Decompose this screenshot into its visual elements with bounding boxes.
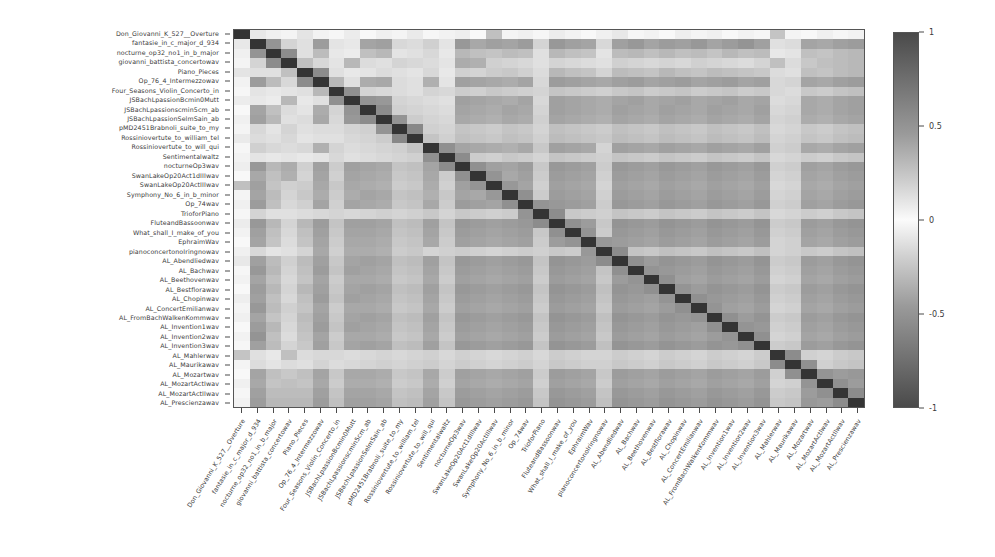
- heatmap-cell: [266, 124, 282, 133]
- heatmap-cell: [407, 87, 423, 96]
- heatmap-cell: [549, 398, 565, 407]
- heatmap-cell: [581, 275, 597, 284]
- heatmap-cell: [250, 181, 266, 190]
- heatmap-cell: [738, 313, 754, 322]
- heatmap-cell: [344, 143, 360, 152]
- heatmap-cell: [722, 153, 738, 162]
- heatmap-cell: [297, 398, 313, 407]
- heatmap-cell: [596, 181, 612, 190]
- heatmap-cell: [329, 379, 345, 388]
- heatmap-cell: [344, 153, 360, 162]
- heatmap-cell: [675, 209, 691, 218]
- heatmap-cell: [644, 115, 660, 124]
- heatmap-cell: [722, 190, 738, 199]
- heatmap-cell: [281, 256, 297, 265]
- heatmap-cell: [376, 115, 392, 124]
- heatmap-cell: [565, 322, 581, 331]
- heatmap-cell: [549, 303, 565, 312]
- heatmap-cell: [455, 96, 471, 105]
- heatmap-cell: [250, 303, 266, 312]
- heatmap-cell: [533, 294, 549, 303]
- heatmap-cell: [565, 49, 581, 58]
- heatmap-cell: [596, 379, 612, 388]
- heatmap-cell: [423, 181, 439, 190]
- heatmap-cell: [754, 275, 770, 284]
- y-tick-label: AL_Invention2wav: [160, 334, 219, 341]
- heatmap-cell: [344, 200, 360, 209]
- heatmap-cell: [833, 379, 849, 388]
- heatmap-cell: [533, 350, 549, 359]
- heatmap-cell: [455, 77, 471, 86]
- heatmap-cell: [848, 247, 864, 256]
- heatmap-cell: [722, 58, 738, 67]
- heatmap-cell: [612, 275, 628, 284]
- heatmap-cell: [502, 209, 518, 218]
- y-tick-label: AL_MozartActIIwav: [158, 390, 219, 397]
- heatmap-cell: [675, 190, 691, 199]
- heatmap-cell: [376, 303, 392, 312]
- heatmap-cell: [470, 275, 486, 284]
- heatmap-cell: [439, 266, 455, 275]
- heatmap-cell: [486, 134, 502, 143]
- heatmap-cell: [407, 134, 423, 143]
- heatmap-cell: [722, 237, 738, 246]
- heatmap-cell: [848, 369, 864, 378]
- heatmap-cell: [392, 388, 408, 397]
- heatmap-cell: [486, 124, 502, 133]
- heatmap-cell: [754, 39, 770, 48]
- heatmap-cell: [644, 228, 660, 237]
- heatmap-cell: [848, 190, 864, 199]
- y-tick: [225, 308, 230, 309]
- heatmap-cell: [518, 228, 534, 237]
- heatmap-cell: [470, 388, 486, 397]
- heatmap-cell: [549, 124, 565, 133]
- heatmap-cell: [518, 105, 534, 114]
- heatmap-cell: [281, 58, 297, 67]
- heatmap-cell: [360, 341, 376, 350]
- heatmap-cell: [234, 77, 250, 86]
- heatmap-cell: [486, 171, 502, 180]
- heatmap-cell: [297, 237, 313, 246]
- heatmap-cell: [392, 313, 408, 322]
- heatmap-cell: [848, 87, 864, 96]
- heatmap-cell: [770, 49, 786, 58]
- heatmap-cell: [439, 96, 455, 105]
- heatmap-cell: [423, 360, 439, 369]
- heatmap-cell: [675, 341, 691, 350]
- heatmap-cell: [628, 39, 644, 48]
- heatmap-cell: [234, 388, 250, 397]
- heatmap-cell: [329, 39, 345, 48]
- y-tick: [225, 374, 230, 375]
- heatmap-cell: [344, 105, 360, 114]
- heatmap-cell: [644, 284, 660, 293]
- heatmap-cell: [486, 162, 502, 171]
- heatmap-cell: [817, 30, 833, 39]
- heatmap-cell: [518, 153, 534, 162]
- heatmap-cell: [596, 209, 612, 218]
- heatmap-cell: [234, 171, 250, 180]
- x-tick: [320, 408, 321, 413]
- heatmap-cell: [801, 322, 817, 331]
- heatmap-cell: [392, 228, 408, 237]
- heatmap-cell: [439, 162, 455, 171]
- heatmap-cell: [833, 96, 849, 105]
- heatmap-cell: [407, 200, 423, 209]
- heatmap-cell: [581, 96, 597, 105]
- heatmap-cell: [707, 332, 723, 341]
- heatmap-cell: [344, 171, 360, 180]
- heatmap-cell: [533, 134, 549, 143]
- heatmap-cell: [392, 87, 408, 96]
- heatmap-cell: [533, 181, 549, 190]
- heatmap-cell: [596, 332, 612, 341]
- heatmap-cell: [376, 341, 392, 350]
- heatmap-cell: [407, 115, 423, 124]
- heatmap-cell: [848, 134, 864, 143]
- heatmap-cell: [707, 87, 723, 96]
- heatmap-cell: [581, 303, 597, 312]
- heatmap-cell: [801, 228, 817, 237]
- heatmap-cell: [738, 247, 754, 256]
- heatmap-cell: [644, 341, 660, 350]
- colorbar-tick: [919, 314, 924, 315]
- heatmap-cell: [533, 322, 549, 331]
- heatmap-cell: [250, 398, 266, 407]
